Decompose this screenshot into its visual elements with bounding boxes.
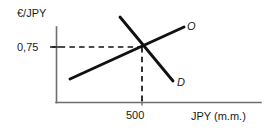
demand-curve-label: D <box>177 77 185 88</box>
y-axis-title: €/JPY <box>17 8 46 19</box>
x-axis-tick-label-500: 500 <box>126 110 144 121</box>
supply-curve-line <box>70 27 184 79</box>
supply-curve-label: O <box>187 21 196 32</box>
supply-demand-chart: €/JPY 0,75 500 JPY (m.m.) O D <box>0 0 267 132</box>
demand-curve-line <box>120 17 173 81</box>
x-axis-title: JPY (m.m.) <box>191 111 246 122</box>
y-axis-tick-label-075: 0,75 <box>17 42 38 53</box>
